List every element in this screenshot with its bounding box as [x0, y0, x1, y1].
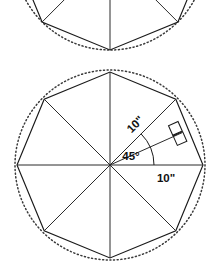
horizontal-dimension-label: 10"	[157, 172, 175, 184]
central-angle-label: 45°	[122, 150, 140, 162]
geometry-figure-container: 10" 45° 10"	[0, 0, 216, 273]
geometry-figure-canvas: 10" 45° 10"	[0, 0, 216, 273]
